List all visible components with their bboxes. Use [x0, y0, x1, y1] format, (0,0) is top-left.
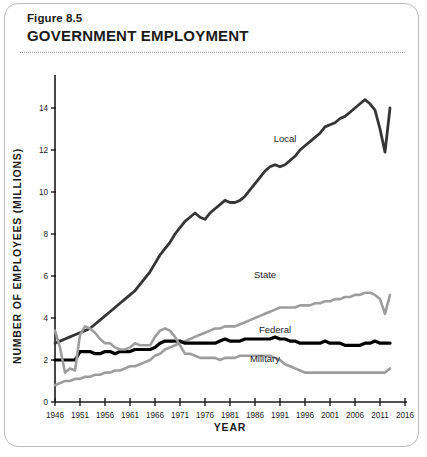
header-divider — [20, 52, 405, 53]
chart-plot-area: 02468101214 1946195119561961196619711976… — [5, 56, 420, 446]
x-axis: 1946195119561961196619711976198119861991… — [46, 398, 415, 420]
series-line-local — [55, 100, 390, 344]
y-tick-label: 2 — [43, 356, 48, 365]
x-tick-label: 1981 — [221, 411, 240, 420]
series-lines — [55, 100, 390, 386]
series-label-federal: Federal — [259, 324, 291, 335]
x-tick-label: 2001 — [321, 411, 340, 420]
line-chart: 02468101214 1946195119561961196619711976… — [5, 56, 420, 446]
series-label-local: Local — [274, 133, 297, 144]
x-tick-label: 1971 — [171, 411, 190, 420]
x-tick-label: 1991 — [271, 411, 290, 420]
y-tick-label: 14 — [39, 104, 49, 113]
figure-card: Figure 8.5 GOVERNMENT EMPLOYMENT 0246810… — [4, 3, 419, 447]
figure-header: Figure 8.5 GOVERNMENT EMPLOYMENT — [27, 11, 397, 45]
y-axis: 02468101214 — [39, 75, 56, 407]
x-tick-label: 1966 — [146, 411, 165, 420]
x-tick-label: 1986 — [246, 411, 265, 420]
x-tick-label: 1976 — [196, 411, 215, 420]
x-tick-label: 1996 — [296, 411, 315, 420]
series-label-state: State — [254, 269, 276, 280]
series-line-military — [55, 326, 390, 372]
x-tick-label: 1956 — [96, 411, 115, 420]
x-tick-label: 2006 — [346, 411, 365, 420]
x-tick-label: 1946 — [46, 411, 65, 420]
series-labels: LocalStateFederalMilitary — [250, 133, 296, 365]
y-tick-label: 10 — [39, 188, 49, 197]
y-tick-label: 12 — [39, 146, 49, 155]
series-label-military: Military — [250, 353, 280, 364]
x-tick-label: 2016 — [396, 411, 415, 420]
x-tick-label: 2011 — [371, 411, 389, 420]
figure-number: Figure 8.5 — [27, 11, 397, 25]
y-tick-label: 6 — [43, 272, 48, 281]
x-axis-title: YEAR — [214, 421, 246, 433]
y-tick-label: 8 — [43, 230, 48, 239]
y-tick-label: 0 — [43, 398, 48, 407]
x-tick-label: 1961 — [121, 411, 140, 420]
x-tick-label: 1951 — [71, 411, 90, 420]
y-axis-title: NUMBER OF EMPLOYEES (MILLIONS) — [11, 148, 23, 364]
y-tick-label: 4 — [43, 314, 48, 323]
figure-title: GOVERNMENT EMPLOYMENT — [27, 26, 397, 45]
series-line-federal — [55, 337, 390, 360]
